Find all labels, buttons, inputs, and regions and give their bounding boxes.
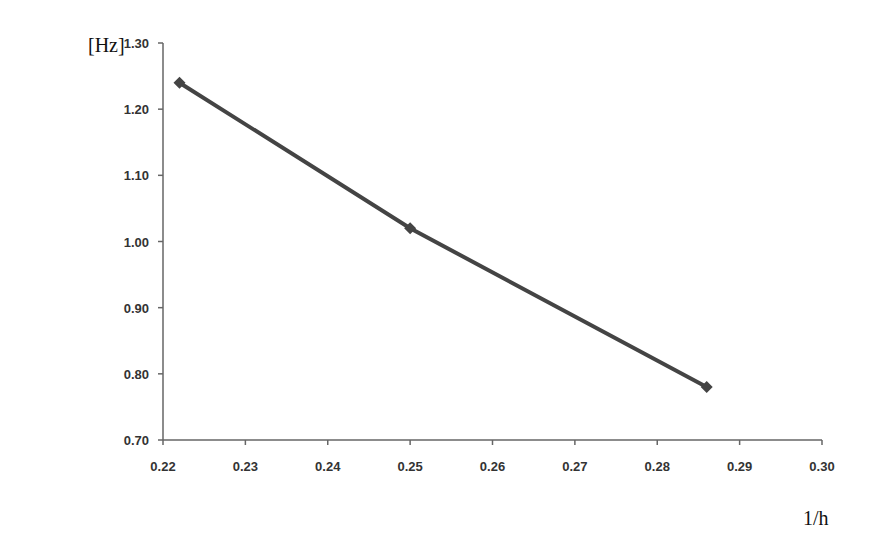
x-tick-label: 0.22 bbox=[150, 459, 175, 474]
axes: 0.700.800.901.001.101.201.300.220.230.24… bbox=[124, 36, 835, 474]
x-tick-label: 0.28 bbox=[645, 459, 670, 474]
x-tick-label: 0.25 bbox=[397, 459, 422, 474]
line-chart: 0.700.800.901.001.101.201.300.220.230.24… bbox=[0, 0, 878, 557]
x-tick-label: 0.30 bbox=[809, 459, 834, 474]
y-tick-label: 0.90 bbox=[124, 301, 149, 316]
y-tick-label: 1.10 bbox=[124, 168, 149, 183]
y-tick-label: 1.30 bbox=[124, 36, 149, 51]
y-tick-label: 0.80 bbox=[124, 367, 149, 382]
x-axis-label: 1/h bbox=[803, 507, 829, 529]
plot-area bbox=[173, 77, 712, 393]
series-line bbox=[179, 83, 706, 387]
x-tick-label: 0.26 bbox=[480, 459, 505, 474]
y-tick-label: 1.00 bbox=[124, 235, 149, 250]
y-axis-label: [Hz] bbox=[88, 34, 125, 56]
x-tick-label: 0.24 bbox=[315, 459, 341, 474]
y-tick-label: 1.20 bbox=[124, 102, 149, 117]
y-tick-label: 0.70 bbox=[124, 433, 149, 448]
x-tick-label: 0.23 bbox=[233, 459, 258, 474]
x-tick-label: 0.27 bbox=[562, 459, 587, 474]
x-tick-label: 0.29 bbox=[727, 459, 752, 474]
